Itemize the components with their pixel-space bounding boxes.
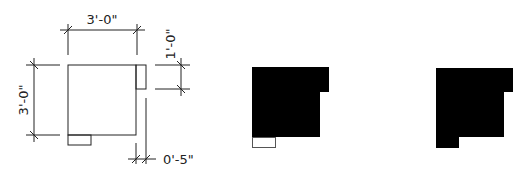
figure-fully-filled [436,68,513,148]
right-tab [136,65,146,89]
outlined-bottom-tab [253,138,276,148]
diagram-canvas: 3'-0" 3'-0" 1'-0" 0'-5" [0,0,523,179]
main-square [68,65,136,135]
dimension-right-tab: 1'-0" [163,29,178,60]
filled-shape [436,68,513,148]
dimension-top-width: 3'-0" [87,12,118,27]
bottom-tab [68,135,91,145]
figure-filled-with-outlined-tab [252,67,329,148]
dimension-bottom-offset: 0'-5" [163,152,194,167]
dimension-left-height: 3'-0" [16,85,31,116]
filled-shape [252,67,329,137]
